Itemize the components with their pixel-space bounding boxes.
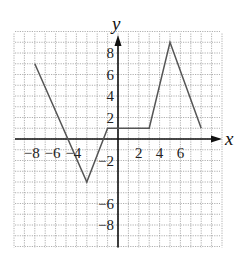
x-tick-label: −6 <box>45 145 61 161</box>
x-tick-label: 2 <box>135 145 143 161</box>
x-tick-label: −8 <box>24 145 40 161</box>
axes <box>15 35 222 248</box>
y-tick-label: 8 <box>107 45 115 61</box>
x-tick-label: 4 <box>156 145 164 161</box>
y-tick-label: −6 <box>98 196 114 212</box>
y-axis-label: y <box>110 13 121 34</box>
coordinate-plane: −8−6−42468642−2−6−8 x y <box>0 0 244 256</box>
function-graph: −8−6−42468642−2−6−8 x y <box>0 0 244 256</box>
y-tick-label: 6 <box>107 67 115 83</box>
y-tick-label: 2 <box>107 110 115 126</box>
x-tick-label: 6 <box>177 145 185 161</box>
y-tick-label: −2 <box>98 153 114 169</box>
x-axis-arrow-icon <box>211 136 222 143</box>
y-tick-label: −8 <box>98 217 114 233</box>
y-axis-arrow-icon <box>115 35 122 46</box>
y-tick-label: 4 <box>107 88 115 104</box>
x-tick-label: −4 <box>65 145 81 161</box>
x-axis-label: x <box>224 128 234 149</box>
